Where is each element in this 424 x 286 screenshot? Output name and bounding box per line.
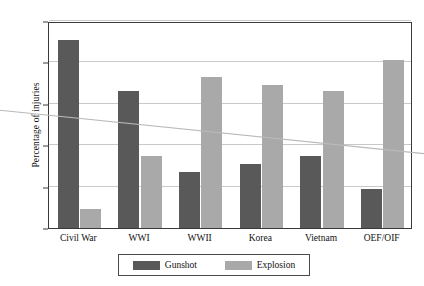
y-axis-title: Percentage of injuries [31, 25, 41, 225]
x-axis-tick-label: Korea [249, 233, 272, 243]
bar-gunshot-oef-oif [361, 189, 382, 228]
bar-explosion-vietnam [323, 91, 344, 228]
x-axis-tick-label: WWII [188, 233, 212, 243]
bar-explosion-korea [262, 85, 283, 228]
bar-gunshot-wwii [179, 172, 200, 228]
bar-gunshot-vietnam [300, 156, 321, 228]
bar-chart-figure: Percentage of injuries 020406080100 Civi… [0, 0, 424, 286]
gridline [49, 61, 411, 62]
bar-group [240, 23, 284, 228]
bar-group [361, 23, 405, 228]
legend-entry-explosion[interactable]: Explosion [225, 260, 296, 270]
bar-group [179, 23, 223, 228]
gridline [49, 144, 411, 145]
x-axis-tick-label: OEF/OIF [364, 233, 400, 243]
legend-entry-gunshot[interactable]: Gunshot [133, 260, 197, 270]
x-axis-tick-label: WWI [128, 233, 149, 243]
bar-gunshot-korea [240, 164, 261, 228]
bar-group [58, 23, 102, 228]
legend-label-explosion: Explosion [257, 260, 296, 270]
legend-swatch-gunshot [133, 261, 160, 270]
bar-explosion-oef-oif [383, 60, 404, 228]
legend-label-gunshot: Gunshot [165, 260, 197, 270]
bar-explosion-wwii [201, 77, 222, 228]
gridline [49, 20, 411, 21]
plot-area [48, 22, 412, 229]
x-axis-tick-label: Vietnam [305, 233, 337, 243]
gridline [49, 103, 411, 104]
bar-group [118, 23, 162, 228]
bar-gunshot-civil-war [58, 40, 79, 228]
bar-gunshot-wwi [118, 91, 139, 228]
x-axis-tick-label: Civil War [60, 233, 97, 243]
gridline [49, 186, 411, 187]
chart-legend: GunshotExplosion [118, 254, 310, 276]
bar-explosion-wwi [141, 156, 162, 228]
bar-group [300, 23, 344, 228]
legend-swatch-explosion [225, 261, 252, 270]
bar-explosion-civil-war [80, 209, 101, 228]
